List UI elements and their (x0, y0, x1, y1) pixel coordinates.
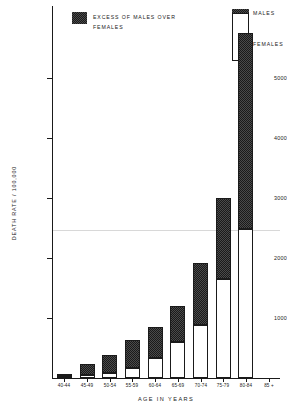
x-tick-80-84 (246, 379, 247, 382)
bar-segment-excess-50-54 (102, 355, 117, 373)
bar-segment-excess-70-74 (193, 263, 208, 325)
bar-segment-females-60-64 (148, 358, 163, 378)
bar-75-79 (216, 198, 231, 378)
y-tick-4000 (47, 138, 53, 139)
legend-females-row: FEMALES (253, 41, 287, 47)
legend-males-label: MALES (253, 10, 275, 16)
bar-segment-excess-80-84 (238, 33, 253, 229)
x-tick-65-69 (178, 379, 179, 382)
bar-60-64 (148, 327, 163, 378)
y-tick-5000 (47, 78, 53, 79)
bar-40-44 (57, 374, 72, 378)
bar-segment-females-70-74 (193, 325, 208, 378)
bar-segment-excess-55-59 (125, 340, 140, 368)
bar-segment-females-75-79 (216, 279, 231, 378)
y-tick-3000 (47, 198, 53, 199)
legend-excess: EXCESS OF MALES OVER FEMALES (72, 12, 176, 33)
x-tick-label-85 +: 85 + (254, 383, 284, 388)
bar-segment-females-40-44 (57, 376, 72, 378)
chart-container: EXCESS OF MALES OVER FEMALES MALES FEMAL… (0, 0, 287, 408)
bar-segment-excess-60-64 (148, 327, 163, 358)
bar-segment-females-65-69 (170, 342, 185, 378)
bar-segment-excess-75-79 (216, 198, 231, 279)
y-tick-1000 (47, 318, 53, 319)
bar-segment-females-50-54 (102, 373, 117, 378)
x-axis-title: AGE IN YEARS (52, 396, 280, 402)
bar-segment-females-80-84 (238, 229, 253, 378)
x-tick-50-54 (110, 379, 111, 382)
x-tick-45-49 (87, 379, 88, 382)
bar-segment-excess-45-49 (80, 364, 95, 375)
bar-segment-females-55-59 (125, 368, 140, 378)
x-tick-40-44 (64, 379, 65, 382)
x-tick-85 + (269, 379, 270, 382)
legend-females-label: FEMALES (253, 41, 284, 47)
bar-segment-excess-65-69 (170, 306, 185, 342)
legend-swatch-excess (72, 12, 87, 24)
x-tick-60-64 (155, 379, 156, 382)
bar-70-74 (193, 263, 208, 378)
bar-segment-females-45-49 (80, 375, 95, 378)
y-tick-2000 (47, 258, 53, 259)
bar-55-59 (125, 340, 140, 378)
x-tick-55-59 (132, 379, 133, 382)
bar-80-84 (238, 33, 253, 378)
x-tick-75-79 (223, 379, 224, 382)
y-axis-line (52, 6, 53, 379)
bar-65-69 (170, 306, 185, 378)
bar-50-54 (102, 355, 117, 378)
x-tick-70-74 (201, 379, 202, 382)
y-axis-title: DEATH RATE / 100,000 (11, 153, 17, 253)
legend-excess-line1: EXCESS OF MALES OVER (93, 13, 176, 23)
legend-excess-text: EXCESS OF MALES OVER FEMALES (93, 12, 176, 33)
bar-45-49 (80, 364, 95, 378)
legend-excess-line2: FEMALES (93, 23, 176, 33)
